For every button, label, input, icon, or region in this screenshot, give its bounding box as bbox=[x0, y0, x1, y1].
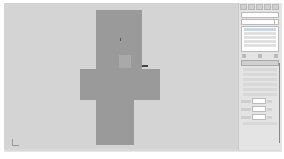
checkbox-row[interactable] bbox=[243, 122, 277, 125]
option-row[interactable] bbox=[243, 73, 277, 76]
stack-item[interactable] bbox=[244, 40, 276, 43]
spinner-unit bbox=[267, 108, 272, 111]
modify-icon[interactable] bbox=[248, 4, 255, 10]
spinner-row bbox=[241, 106, 279, 112]
spinner-input[interactable] bbox=[252, 98, 266, 104]
display-icon[interactable] bbox=[272, 4, 279, 10]
axis-tripod-icon bbox=[12, 139, 19, 146]
vertex-dot bbox=[120, 38, 121, 41]
mesh-bottom-block[interactable] bbox=[96, 99, 134, 145]
stack-item[interactable] bbox=[244, 36, 276, 39]
command-panel bbox=[238, 3, 281, 150]
spinner-input[interactable] bbox=[252, 114, 266, 120]
option-row[interactable] bbox=[243, 83, 277, 86]
spinner-row bbox=[241, 114, 279, 120]
stack-item[interactable] bbox=[244, 32, 276, 35]
stack-item[interactable] bbox=[244, 44, 276, 47]
option-row[interactable] bbox=[243, 68, 277, 71]
selected-face[interactable] bbox=[119, 55, 131, 68]
remove-modifier-icon[interactable] bbox=[274, 54, 278, 58]
spinner-label bbox=[241, 108, 251, 111]
modifier-list-dropdown[interactable] bbox=[241, 19, 279, 25]
panel-scrollbar[interactable] bbox=[279, 63, 280, 143]
spinner-label bbox=[241, 100, 251, 103]
spinner-row bbox=[241, 98, 279, 104]
spinner-input[interactable] bbox=[252, 106, 266, 112]
mesh-middle-arm[interactable] bbox=[80, 69, 160, 100]
option-row[interactable] bbox=[243, 78, 277, 81]
pin-stack-icon[interactable] bbox=[242, 54, 246, 58]
show-end-result-icon[interactable] bbox=[258, 54, 262, 58]
stack-toolbar bbox=[242, 54, 278, 58]
spinner-unit bbox=[267, 116, 272, 119]
option-row[interactable] bbox=[243, 93, 277, 96]
spinner-label bbox=[241, 116, 251, 119]
stack-item[interactable] bbox=[244, 28, 276, 31]
spinner-unit bbox=[267, 100, 272, 103]
modifier-stack[interactable] bbox=[241, 26, 279, 52]
command-panel-tabs bbox=[239, 3, 281, 11]
gizmo-marker bbox=[142, 65, 148, 67]
rollout-header[interactable] bbox=[241, 60, 279, 66]
motion-icon[interactable] bbox=[264, 4, 271, 10]
option-row[interactable] bbox=[243, 88, 277, 91]
object-name-field[interactable] bbox=[241, 12, 279, 18]
hierarchy-icon[interactable] bbox=[256, 4, 263, 10]
create-icon[interactable] bbox=[240, 4, 247, 10]
perspective-viewport[interactable] bbox=[4, 3, 238, 149]
